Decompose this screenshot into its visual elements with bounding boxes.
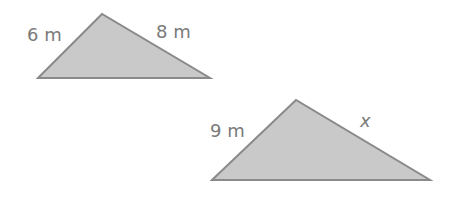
small-triangle-right-side-label: 8 m	[156, 21, 191, 42]
small-triangle-group: 6 m 8 m	[27, 14, 210, 78]
similar-triangles-figure: 6 m 8 m 9 m x	[0, 0, 456, 205]
large-triangle-group: 9 m x	[210, 100, 430, 180]
small-triangle-left-side-label: 6 m	[27, 24, 62, 45]
large-triangle-left-side-label: 9 m	[210, 120, 245, 141]
large-triangle-unknown-side-label: x	[359, 110, 371, 131]
